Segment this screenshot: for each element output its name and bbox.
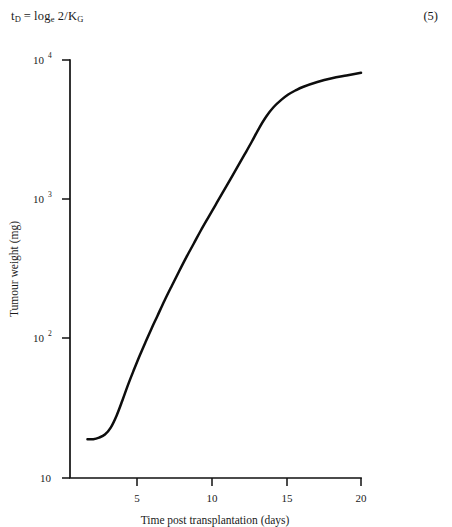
y-axis-tick-labels: 10 4 10 3 10 2 10 [33,51,52,484]
y-tick-label-1000-exp: 3 [48,190,52,199]
y-tick-label-10000-base: 10 [33,54,45,66]
y-tick-label-10-base: 10 [40,472,52,484]
x-tick-label-20: 20 [356,492,368,504]
x-tick-label-5: 5 [134,492,140,504]
equation-formula: tD=loge 2/KG [11,9,83,24]
x-axis-title: Time post transplantation (days) [141,514,290,527]
equation-row: tD=loge 2/KG (5) [0,0,452,38]
y-tick-label-1000-base: 10 [33,193,45,205]
x-axis-ticks [137,478,361,486]
axis-lines [70,60,361,478]
tumour-growth-curve [87,73,361,440]
tumour-growth-figure: 10 4 10 3 10 2 10 5 10 15 20 Time post t… [0,38,452,527]
y-axis-ticks [62,60,70,478]
equation-operator: = [21,9,34,23]
x-tick-label-10: 10 [207,492,219,504]
y-tick-label-100-exp: 2 [48,329,52,338]
x-tick-label-15: 15 [282,492,294,504]
equation-rhs-subscript: G [77,14,83,24]
equation-log-subscript: e [51,14,55,24]
y-axis-title: Tumour weight (mg) [8,221,21,317]
equation-lhs-subscript: D [15,14,21,24]
y-tick-label-10000-exp: 4 [48,51,52,60]
equation-log: log [34,9,51,23]
equation-rhs: 2/K [58,9,77,23]
y-tick-label-100-base: 10 [33,332,45,344]
equation-number: (5) [423,9,438,24]
growth-curve-plot: 10 4 10 3 10 2 10 5 10 15 20 Time post t… [0,38,452,527]
x-axis-tick-labels: 5 10 15 20 [134,492,367,504]
